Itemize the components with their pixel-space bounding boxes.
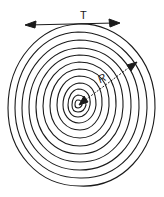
ring-8 (57, 76, 102, 130)
growth-rings (8, 24, 155, 186)
arrowhead-right-icon (109, 19, 120, 27)
tree-rings-diagram (0, 0, 164, 197)
ring-10 (68, 89, 90, 117)
ring-2 (15, 32, 147, 178)
arrowhead-left-icon (25, 21, 36, 28)
tangential-arrow (25, 19, 120, 28)
tangential-label: T (80, 10, 87, 21)
arrowhead-outer-icon (127, 62, 137, 71)
